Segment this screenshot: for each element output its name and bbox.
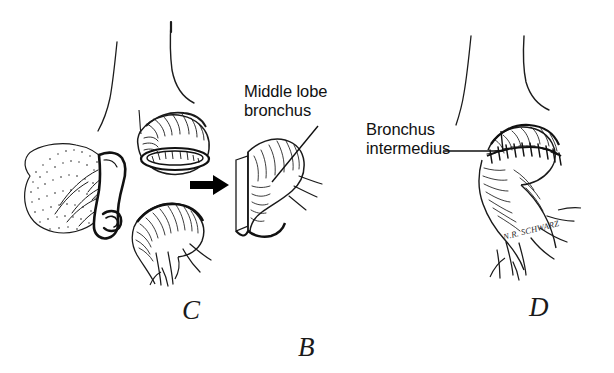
resected-lung-specimen: [25, 144, 126, 239]
illustration-artwork: [0, 0, 614, 373]
medical-illustration-figure: Middle lobebronchus Bronchusintermedius …: [0, 0, 614, 373]
label-middle-lobe-line1: Middle lobe: [244, 82, 327, 100]
label-middle-lobe-bronchus: Middle lobebronchus: [244, 82, 327, 121]
label-middle-lobe-line2: bronchus: [244, 101, 311, 119]
panel-letter-c: C: [182, 295, 200, 326]
panel-letter-d: D: [529, 292, 549, 323]
label-bronchus-intermedius-line2: intermedius: [366, 139, 450, 157]
panel-letter-b: B: [298, 332, 315, 363]
label-bronchus-intermedius: Bronchusintermedius: [366, 120, 450, 159]
label-bronchus-intermedius-line1: Bronchus: [366, 120, 435, 138]
